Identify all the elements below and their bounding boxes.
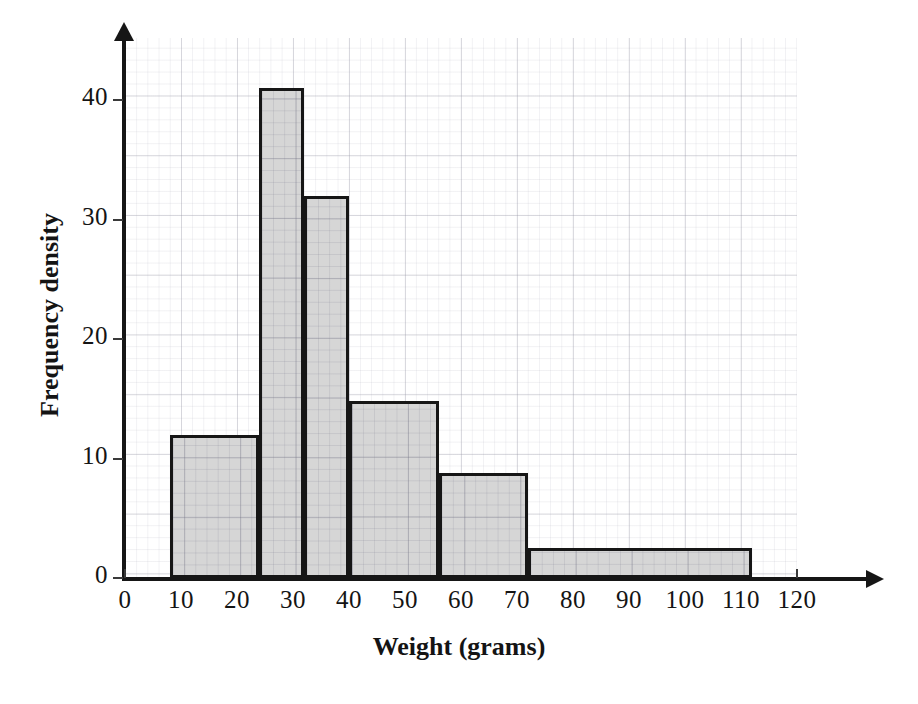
y-tick-label: 20 [60, 322, 108, 350]
x-tick-label: 110 [711, 586, 771, 614]
x-tick-label: 30 [263, 586, 323, 614]
x-tick-label: 10 [151, 586, 211, 614]
histogram-bar [259, 88, 304, 578]
histogram-chart: 0102030405060708090100110120 010203040 W… [0, 0, 918, 704]
y-tick-label: 30 [60, 203, 108, 231]
histogram-bar [349, 401, 439, 578]
x-tick-label: 90 [599, 586, 659, 614]
x-tick-label: 70 [487, 586, 547, 614]
plot-area [125, 38, 797, 578]
x-tick-label: 20 [207, 586, 267, 614]
x-tick-label: 60 [431, 586, 491, 614]
x-tick-label: 0 [95, 586, 155, 614]
x-tick-label: 120 [767, 586, 827, 614]
x-axis-arrow-icon [866, 570, 884, 588]
x-tick-label: 40 [319, 586, 379, 614]
x-tick-label: 80 [543, 586, 603, 614]
y-tick-mark [113, 577, 123, 579]
y-tick-mark [113, 338, 123, 340]
y-axis-title: Frequency density [35, 135, 65, 495]
y-tick-mark [113, 219, 123, 221]
y-tick-label: 0 [60, 561, 108, 589]
y-tick-label: 40 [60, 83, 108, 111]
histogram-bar [528, 548, 752, 578]
y-tick-label: 10 [60, 442, 108, 470]
x-tick-mark [124, 569, 126, 578]
y-tick-mark [113, 458, 123, 460]
x-tick-label: 100 [655, 586, 715, 614]
histogram-bar [304, 196, 349, 578]
x-axis-title: Weight (grams) [0, 632, 918, 662]
y-axis-line [122, 38, 126, 581]
y-axis-arrow-icon [114, 22, 134, 41]
x-tick-mark [796, 569, 798, 578]
histogram-bar [439, 473, 529, 578]
y-tick-mark [113, 99, 123, 101]
histogram-bar [170, 435, 260, 578]
x-tick-label: 50 [375, 586, 435, 614]
